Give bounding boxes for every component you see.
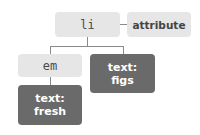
node-attribute-label: attribute <box>132 19 185 31</box>
connector-em-fresh <box>50 77 51 85</box>
node-text-fresh-line2: fresh <box>34 105 66 118</box>
node-li-label: li <box>80 18 94 32</box>
node-text-figs-line2: figs <box>111 74 134 87</box>
connector-to-em <box>50 46 51 54</box>
node-em-label: em <box>43 59 57 73</box>
node-text-fresh-line1: text: <box>35 92 64 105</box>
connector-li-attribute <box>120 24 127 25</box>
node-text-fresh: text: fresh <box>18 85 82 125</box>
connector-li-stem <box>87 37 88 46</box>
node-text-figs: text: figs <box>90 54 155 93</box>
node-li: li <box>55 12 120 37</box>
connector-to-figs <box>123 46 124 54</box>
node-em: em <box>18 54 82 77</box>
connector-horizontal <box>50 46 124 47</box>
node-text-figs-line1: text: <box>108 61 137 74</box>
node-attribute: attribute <box>127 12 191 37</box>
